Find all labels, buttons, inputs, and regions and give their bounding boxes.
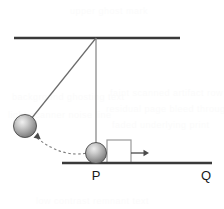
label-point-p: P: [92, 168, 101, 183]
diagram-canvas: P Q: [0, 0, 224, 209]
swing-trajectory-arc: [37, 138, 87, 154]
pendulum-bob-raised: [14, 115, 37, 138]
block-on-ground: [107, 140, 131, 163]
block-motion-arrowhead: [144, 150, 150, 156]
pendulum-bob-at-rest: [86, 143, 107, 164]
swing-direction-arrowhead: [34, 133, 41, 140]
physics-diagram-figure: background ghosting textfaint scanned ar…: [0, 0, 224, 209]
label-point-q: Q: [201, 168, 211, 183]
pendulum-string: [27, 38, 96, 124]
